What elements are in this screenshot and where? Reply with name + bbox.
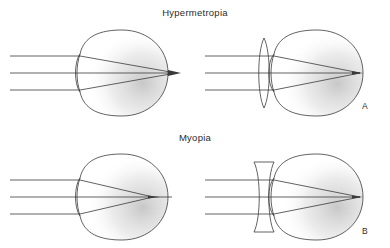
- title-myopia: Myopia: [0, 132, 390, 143]
- panel-label-a: A: [362, 101, 368, 111]
- diagram-myopia-corrected: [205, 154, 363, 240]
- focal-point-icon: [168, 70, 181, 76]
- optics-diagram-svg: [0, 0, 390, 248]
- title-hypermetropia: Hypermetropia: [0, 7, 390, 18]
- panel-label-b: B: [362, 226, 368, 236]
- optics-figure: Hypermetropia Myopia A B: [0, 0, 390, 248]
- diagram-hypermetropia-uncorrected: [10, 30, 181, 116]
- diagram-hypermetropia-corrected: [205, 30, 363, 116]
- diagram-myopia-uncorrected: [10, 154, 172, 240]
